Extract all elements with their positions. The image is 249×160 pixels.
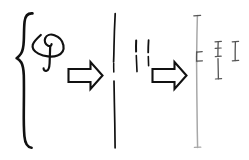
diagram-canvas: Hand-drawn transformation sequence A ske…	[0, 0, 249, 160]
stage-3-ticked-axis	[0, 0, 249, 160]
bracket-segment-short	[232, 41, 239, 60]
faint-long-vertical-line	[194, 15, 203, 147]
bracket-segment-tall	[215, 41, 222, 79]
